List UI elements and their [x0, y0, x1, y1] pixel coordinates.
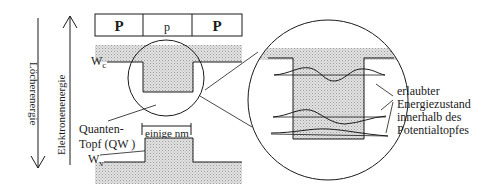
layer-right-label: P	[212, 18, 221, 34]
connector-line-bottom	[200, 96, 252, 127]
conduction-band	[95, 45, 242, 92]
width-label: einige nm	[145, 127, 189, 139]
quantum-well-label-line1: Quanten-	[79, 122, 124, 136]
state-annotation-line2: Energiezustand	[397, 97, 471, 111]
state-annotation-line3: innerhalb des	[397, 110, 462, 124]
layer-middle-label: p	[164, 20, 170, 34]
hole-energy-label: Löcherenergie	[28, 62, 40, 125]
state-annotation-line4: Potentialtopfes	[397, 123, 469, 137]
layer-left-label: P	[114, 18, 123, 34]
state-pointer-lines	[376, 84, 393, 133]
quantum-well-label-line2: Topf (QW )	[79, 137, 135, 151]
electron-energy-label: Elektronenenergie	[55, 74, 67, 155]
qw-pointer-line-top	[108, 105, 156, 121]
valence-band-label: Wv	[88, 152, 104, 168]
state-annotation-line1: erlaubter	[397, 84, 440, 98]
zoom-circle-large	[245, 20, 408, 180]
quantum-well-diagram: Löcherenergie Elektronenenergie P p P Wc…	[0, 0, 490, 186]
